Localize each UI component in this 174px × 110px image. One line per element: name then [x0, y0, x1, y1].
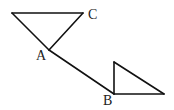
geometry-diagram: C A B: [0, 0, 174, 110]
label-a: A: [36, 48, 47, 63]
segment-a-b: [49, 50, 114, 94]
lower-triangle: [114, 62, 164, 94]
segment-c-a: [49, 13, 83, 50]
label-c: C: [88, 7, 97, 22]
label-b: B: [103, 93, 112, 108]
upper-triangle: [12, 13, 83, 50]
lower-triangle-hypotenuse: [114, 62, 164, 94]
upper-triangle-left-side: [12, 13, 49, 50]
